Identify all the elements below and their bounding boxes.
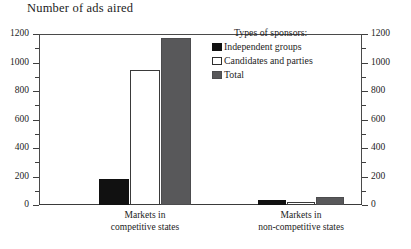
x-axis-category-line: Markets in — [231, 210, 371, 222]
legend-item-label: Independent groups — [224, 40, 302, 53]
tick-mark-right — [362, 91, 368, 92]
y-axis-label-left: 200 — [15, 172, 29, 182]
legend-item-label: Candidates and parties — [224, 54, 313, 67]
legend: Types of sponsors: Independent groupsCan… — [212, 26, 313, 82]
legend-item-independent: Independent groups — [212, 40, 313, 53]
tick-mark-left — [33, 148, 39, 149]
y-axis-label-right: 1000 — [371, 58, 390, 68]
tick-mark-right — [362, 191, 366, 192]
x-axis-category-line: competitive states — [75, 222, 215, 234]
y-axis-label-right: 200 — [371, 172, 385, 182]
tick-mark-left — [33, 91, 39, 92]
tick-mark-right — [362, 205, 368, 206]
tick-mark-left — [35, 105, 39, 106]
x-axis-category-line: non-competitive states — [231, 222, 371, 234]
tick-mark-right — [362, 177, 368, 178]
tick-mark-left — [33, 177, 39, 178]
legend-items: Independent groupsCandidates and parties… — [212, 40, 313, 81]
chart-container: Number of ads aired 00200200400400600600… — [0, 0, 411, 249]
y-axis-label-right: 400 — [371, 143, 385, 153]
tick-mark-left — [35, 134, 39, 135]
legend-swatch-total-icon — [212, 71, 222, 79]
tick-mark-left — [35, 48, 39, 49]
y-axis-label-left: 1000 — [10, 58, 29, 68]
tick-mark-left — [35, 191, 39, 192]
bar-independent — [258, 200, 286, 205]
y-axis-label-left: 1200 — [10, 29, 29, 39]
tick-mark-right — [362, 63, 368, 64]
legend-swatch-candidates-icon — [212, 57, 222, 65]
tick-mark-right — [362, 134, 366, 135]
y-axis-label-left: 600 — [15, 115, 29, 125]
y-axis-label-right: 0 — [371, 200, 376, 210]
x-axis-category-line: Markets in — [75, 210, 215, 222]
plot-area — [39, 34, 362, 205]
y-axis-label-right: 600 — [371, 115, 385, 125]
bar-total — [161, 38, 191, 205]
x-axis-category-label: Markets incompetitive states — [75, 210, 215, 233]
bar-independent — [99, 179, 129, 205]
tick-mark-left — [35, 162, 39, 163]
tick-mark-left — [33, 120, 39, 121]
y-axis-label-left: 800 — [15, 86, 29, 96]
tick-mark-left — [35, 77, 39, 78]
legend-item-label: Total — [224, 68, 244, 81]
bar-candidates — [287, 202, 315, 205]
legend-item-candidates: Candidates and parties — [212, 54, 313, 67]
tick-mark-left — [33, 34, 39, 35]
legend-title: Types of sponsors: — [234, 26, 313, 39]
y-axis-label-right: 1200 — [371, 29, 390, 39]
bar-total — [316, 197, 344, 205]
y-axis-label-left: 400 — [15, 143, 29, 153]
tick-mark-right — [362, 105, 366, 106]
tick-mark-left — [33, 205, 39, 206]
x-axis-category-label: Markets innon-competitive states — [231, 210, 371, 233]
tick-mark-right — [362, 148, 368, 149]
tick-mark-right — [362, 162, 366, 163]
bar-candidates — [130, 70, 160, 205]
legend-swatch-independent-icon — [212, 43, 222, 51]
legend-item-total: Total — [212, 68, 313, 81]
chart-title: Number of ads aired — [27, 1, 133, 16]
tick-mark-right — [362, 77, 366, 78]
y-axis-label-right: 800 — [371, 86, 385, 96]
tick-mark-right — [362, 48, 366, 49]
tick-mark-left — [33, 63, 39, 64]
tick-mark-right — [362, 120, 368, 121]
y-axis-label-left: 0 — [24, 200, 29, 210]
tick-mark-right — [362, 34, 368, 35]
